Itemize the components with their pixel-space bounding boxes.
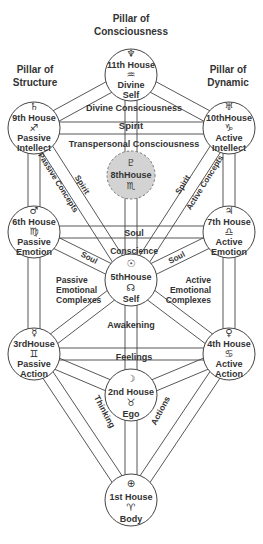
node-h4: ♀4th House♋ActiveAction — [203, 327, 255, 380]
pillar-consciousness-line1: Pillar of — [113, 13, 150, 24]
mars-icon: ♂ — [30, 205, 39, 216]
label-passive-concepts: Passive Concepts — [36, 151, 80, 214]
node-description: Passive — [17, 133, 51, 143]
pillar-structure-line2: Structure — [13, 77, 58, 88]
house-label: 1st House — [109, 492, 152, 502]
jupiter-icon: ♃ — [225, 205, 234, 216]
node-description: Divine — [117, 80, 144, 90]
label-soul-right: Soul — [167, 250, 187, 266]
sun-icon: ☉ — [127, 258, 136, 269]
capricorn-icon: ♑ — [225, 122, 234, 133]
node-description: Action — [215, 369, 243, 379]
cancer-icon: ♋ — [225, 348, 234, 359]
house-label: 5thHouse — [110, 272, 151, 282]
label-active-emotional-complexes: Active Emotional Complexes — [166, 275, 212, 305]
label-awakening: Awakening — [107, 320, 154, 330]
pillar-dynamic-line2: Dynamic — [207, 77, 249, 88]
pillar-consciousness-line2: Consciousness — [94, 26, 168, 37]
label-spirit-left: Spirit — [73, 174, 92, 196]
venus-icon: ♀ — [225, 327, 232, 338]
node-h1: ⊕1st House♈Body — [105, 474, 157, 526]
gemini-icon: ♊ — [30, 348, 39, 359]
sagittarius-icon: ♐ — [30, 122, 39, 133]
label-aec-line1: Active — [185, 275, 211, 285]
virgo-icon: ♍ — [30, 226, 39, 237]
mercury-icon: ☿ — [31, 327, 37, 338]
neptune-icon: ♆ — [127, 48, 136, 59]
pillar-structure-line1: Pillar of — [17, 64, 54, 75]
node-h9: ♄9th House♐PassiveIntellect — [8, 101, 60, 154]
earth-icon: ⊕ — [127, 478, 135, 489]
node-description: Ego — [123, 409, 141, 419]
node-h2: ☽2nd House♉Ego — [105, 369, 157, 421]
node-description: Action — [20, 369, 48, 379]
node-h3: ☿3rdHouse♊PassiveAction — [8, 327, 60, 380]
taurus-icon: ♉ — [127, 397, 136, 408]
label-aec-line2: Emotional — [170, 285, 211, 295]
saturn-icon: ♄ — [30, 101, 39, 112]
label-aec-line3: Complexes — [166, 295, 212, 305]
node-description: Self — [123, 90, 141, 100]
node-h11: ♆11th House♒DivineSelf — [105, 48, 157, 101]
node-description: Passive — [17, 237, 51, 247]
aries-icon: ♈ — [127, 502, 136, 513]
label-transpersonal-consciousness: Transpersonal Consciousness — [69, 139, 200, 149]
label-spirit-horizontal: Spirit — [119, 120, 144, 131]
node-h5: ☉5thHouse☊Self — [105, 254, 157, 306]
label-soul-horizontal: Soul — [124, 228, 144, 238]
label-passive-emotional-complexes: Passive Emotional Complexes — [56, 275, 102, 305]
label-divine-consciousness: Divine Consciousness — [86, 103, 182, 113]
node-description: Active — [215, 237, 242, 247]
node-h10: ♅10thHouse♑ActiveIntellect — [203, 101, 255, 154]
label-pec-line2: Emotional — [56, 285, 97, 295]
node-description: Emotion — [16, 247, 52, 257]
label-feelings: Feelings — [116, 352, 153, 362]
node-description: Intellect — [17, 143, 51, 153]
libra-icon: ♎ — [225, 226, 234, 237]
tree-of-life-diagram: ♆11th House♒DivineSelf♄9th House♐Passive… — [0, 0, 263, 544]
node-description: Self — [123, 294, 141, 304]
label-soul-left: Soul — [79, 250, 99, 266]
node-description: Body — [120, 514, 143, 524]
label-conscience: Conscience — [110, 246, 158, 256]
pillar-structure-title: Pillar of Structure — [13, 64, 58, 88]
uranus-icon: ♅ — [225, 101, 234, 112]
pillar-dynamic-title: Pillar of Dynamic — [207, 64, 249, 88]
node-description: Active — [215, 133, 242, 143]
label-active-concepts: Active Concepts — [184, 153, 225, 211]
house-label: 2nd House — [108, 387, 154, 397]
node-description: Emotion — [211, 247, 247, 257]
label-spirit-right: Spirit — [174, 173, 193, 195]
node-description: Passive — [17, 359, 51, 369]
house-label: 8thHouse — [110, 170, 151, 180]
label-pec-line3: Complexes — [56, 295, 102, 305]
pillar-dynamic-line1: Pillar of — [210, 64, 247, 75]
node-description: Intellect — [212, 143, 246, 153]
node-h7: ♃7th House♎ActiveEmotion — [203, 205, 255, 258]
node-h6: ♂6th House♍PassiveEmotion — [8, 205, 60, 258]
node-description: Active — [215, 359, 242, 369]
north-node-icon: ☊ — [127, 282, 136, 293]
aquarius-icon: ♒ — [127, 69, 136, 80]
pillar-consciousness-title: Pillar of Consciousness — [94, 13, 168, 37]
label-pec-line1: Passive — [56, 275, 88, 285]
scorpio-icon: ♏ — [127, 180, 136, 191]
node-h8: ♇8thHouse♏ — [107, 151, 155, 199]
moon-icon: ☽ — [127, 373, 136, 384]
pluto-icon: ♇ — [127, 157, 136, 168]
